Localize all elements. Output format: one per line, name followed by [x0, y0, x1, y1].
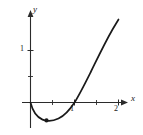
x-axis-label: x	[131, 94, 135, 103]
y-tick-label-1: 1	[20, 45, 24, 53]
minimum-point-marker	[44, 118, 48, 122]
graph-plot	[0, 0, 143, 135]
figure-container: y x 1 1 2	[0, 0, 143, 135]
y-axis-label: y	[33, 5, 37, 14]
x-tick-label-2: 2	[114, 105, 118, 113]
curve-path	[31, 20, 119, 121]
x-axis-arrow-icon	[121, 100, 128, 106]
x-tick-label-1: 1	[70, 105, 74, 113]
